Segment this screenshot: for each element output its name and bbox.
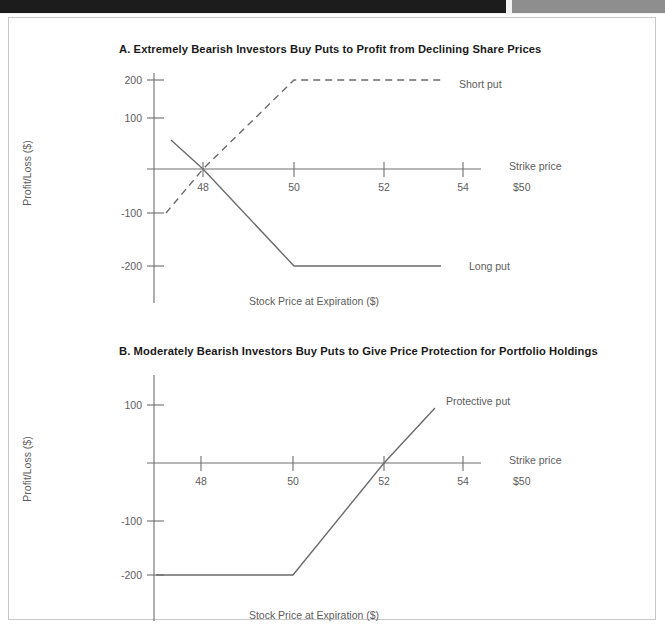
chart-a-label-long-put: Long put (469, 260, 510, 272)
chart-b-xtick-label-48: 48 (195, 475, 207, 487)
chart-a-plot: 200 100 -100 -200 48 50 52 54 Short put … (9, 18, 657, 338)
chart-a-xtick-label-48: 48 (197, 181, 209, 193)
chart-b-xtick-label-50: 50 (287, 475, 299, 487)
chart-b-ytick-label-100: 100 (124, 399, 142, 411)
chart-a-xtick-label-54: 54 (457, 181, 469, 193)
chart-a-ytick-label-neg100: -100 (121, 207, 142, 219)
chart-a-series-long-put (171, 140, 441, 266)
chart-b-strike-price-value: $50 (513, 475, 531, 487)
chart-a-x-axis-title: Stock Price at Expiration ($) (249, 295, 379, 307)
scan-gray-band (512, 0, 665, 13)
chart-a-ytick-label-100: 100 (124, 112, 142, 124)
chart-b-ytick-label-neg200: -200 (121, 569, 142, 581)
page-scan-strip (0, 0, 665, 14)
chart-a-series-short-put (166, 80, 441, 213)
chart-b-label-protective-put: Protective put (446, 395, 510, 407)
chart-a-xtick-label-52: 52 (378, 181, 390, 193)
chart-b-ytick-label-neg100: -100 (121, 515, 142, 527)
chart-a-xtick-label-50: 50 (288, 181, 300, 193)
chart-a-y-axis-title: Profit/Loss ($) (21, 140, 33, 205)
chart-a-strike-price-label: Strike price (509, 160, 562, 172)
chart-a-label-short-put: Short put (459, 78, 502, 90)
chart-b-xtick-label-52: 52 (378, 475, 390, 487)
chart-b-y-axis-title: Profit/Loss ($) (21, 436, 33, 501)
chart-a-strike-price-value: $50 (513, 181, 531, 193)
chart-b-xtick-label-54: 54 (457, 475, 469, 487)
figure-panel: A. Extremely Bearish Investors Buy Puts … (8, 17, 656, 620)
chart-b-x-axis-title: Stock Price at Expiration ($) (249, 609, 379, 621)
chart-a-ytick-label-200: 200 (124, 74, 142, 86)
chart-b-plot: 100 -100 -200 48 50 52 54 Protective put… (9, 351, 657, 621)
chart-a-ytick-label-neg200: -200 (121, 260, 142, 272)
chart-b-series-protective-put (156, 408, 435, 575)
chart-b-strike-price-label: Strike price (509, 454, 562, 466)
scan-dark-band (0, 0, 506, 13)
